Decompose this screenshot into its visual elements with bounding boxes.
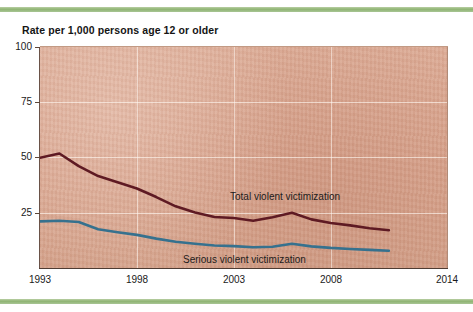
plot-area: Total violent victimization Serious viol… (40, 47, 447, 268)
y-tick-label-50: 50 (2, 151, 32, 162)
x-tick-label-2014: 2014 (427, 274, 467, 285)
chart-title: Rate per 1,000 persons age 12 or older (22, 24, 218, 36)
y-tick-label-100: 100 (2, 41, 32, 52)
chart-figure: Rate per 1,000 persons age 12 or older T… (0, 0, 473, 312)
plot-border-right (447, 47, 448, 269)
y-tick-label-75: 75 (2, 96, 32, 107)
x-tick-label-1993: 1993 (20, 274, 60, 285)
x-tick-label-1998: 1998 (117, 274, 157, 285)
y-tick-mark-75 (35, 102, 40, 103)
x-axis-line (39, 268, 448, 269)
annotation-total-violent: Total violent victimization (230, 191, 340, 202)
x-tick-label-2008: 2008 (311, 274, 351, 285)
bottom-rule-decoration (0, 299, 473, 304)
y-tick-mark-25 (35, 213, 40, 214)
annotation-serious-violent: Serious violent victimization (183, 254, 306, 265)
series-lines (40, 47, 447, 268)
x-tick-label-2003: 2003 (214, 274, 254, 285)
top-rule-decoration (0, 7, 473, 12)
y-tick-mark-50 (35, 157, 40, 158)
y-tick-mark-100 (35, 47, 40, 48)
line-serious-violent-victimization (40, 221, 389, 251)
y-tick-label-25: 25 (2, 207, 32, 218)
